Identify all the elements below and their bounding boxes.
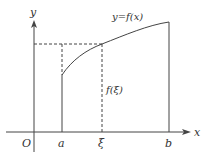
tick-label-a: a: [58, 137, 65, 150]
tick-label-b: b: [165, 137, 172, 150]
curve-f: [62, 22, 169, 75]
tick-label-xi: ξ: [98, 137, 105, 150]
curve-label: y=f(x): [111, 11, 143, 22]
integral-mean-value-diagram: y x O a ξ b y=f(x) f(ξ): [0, 0, 204, 157]
origin-label: O: [22, 137, 31, 150]
f-xi-label: f(ξ): [105, 84, 123, 95]
x-axis-label: x: [194, 126, 201, 139]
y-axis-label: y: [29, 6, 37, 19]
